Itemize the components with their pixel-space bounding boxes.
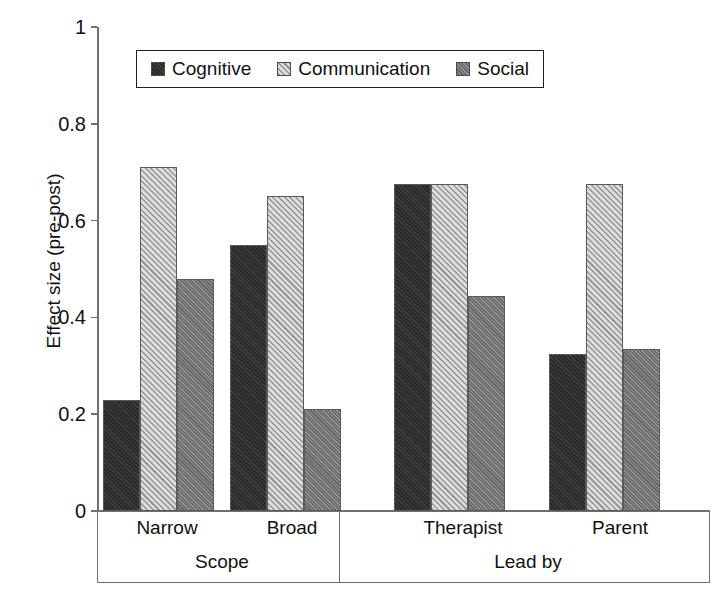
plot-area — [97, 27, 710, 511]
category-label-narrow: Narrow — [136, 517, 197, 539]
category-label-therapist: Therapist — [423, 517, 502, 539]
bar-parent-social — [623, 349, 660, 511]
y-tick-label: 0.4 — [58, 306, 86, 329]
y-axis-title: Effect size (pre-post) — [43, 111, 65, 411]
bar-therapist-social — [468, 296, 505, 511]
bar-parent-communication — [586, 184, 623, 511]
bar-therapist-cognitive — [394, 184, 431, 511]
y-tick-label: 0.6 — [58, 210, 86, 233]
category-label-parent: Parent — [592, 517, 648, 539]
group-label-scope: Scope — [195, 551, 249, 573]
bar-narrow-social — [177, 279, 214, 511]
bar-chart-figure: Effect size (pre-post) 10.80.60.40.20 Co… — [0, 0, 715, 610]
bar-broad-communication — [267, 196, 304, 511]
bar-narrow-cognitive — [103, 400, 140, 511]
group-divider — [339, 511, 340, 583]
y-tick-label: 0.2 — [58, 403, 86, 426]
y-tick-label: 1 — [75, 16, 86, 39]
bar-broad-cognitive — [230, 245, 267, 511]
y-tick-label: 0 — [75, 500, 86, 523]
bar-parent-cognitive — [549, 354, 586, 511]
bar-broad-social — [304, 409, 341, 511]
y-tick-label: 0.8 — [58, 113, 86, 136]
bar-therapist-communication — [431, 184, 468, 511]
category-label-broad: Broad — [267, 517, 318, 539]
group-label-lead-by: Lead by — [494, 551, 562, 573]
bar-narrow-communication — [140, 167, 177, 511]
